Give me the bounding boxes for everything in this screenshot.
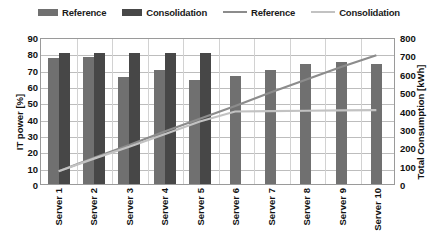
x-axis-tick-label: Server 2 — [88, 188, 99, 226]
y-axis-left-tick-label: 10 — [27, 163, 38, 174]
chart-legend: ReferenceConsolidationReferenceConsolida… — [0, 3, 438, 21]
chart-container: ReferenceConsolidationReferenceConsolida… — [0, 0, 438, 244]
plot-area — [40, 38, 395, 185]
line-series-layer — [41, 39, 394, 184]
legend-label: Consolidation — [339, 7, 400, 18]
x-axis-tick-label: Server 5 — [194, 188, 205, 226]
y-axis-left-tick-label: 50 — [27, 98, 38, 109]
y-axis-right-tick-label: 800 — [400, 33, 416, 44]
legend-swatch-bar-icon — [122, 9, 142, 16]
y-axis-right-tick-label: 500 — [400, 88, 416, 99]
x-axis-label-cell: Server 5 — [182, 186, 218, 244]
y-axis-right-tick-label: 300 — [400, 124, 416, 135]
legend-item-consolidation-line[interactable]: Consolidation — [311, 7, 400, 18]
x-axis-label-cell: Server 9 — [324, 186, 360, 244]
x-axis-tick-label: Server 10 — [372, 188, 383, 231]
legend-label: Consolidation — [146, 7, 207, 18]
y-axis-right-tick-label: 0 — [400, 180, 405, 191]
legend-swatch-line-icon — [223, 11, 247, 13]
x-axis-tick-label: Server 8 — [301, 188, 312, 226]
legend-label: Reference — [251, 7, 295, 18]
x-axis-label-cell: Server 10 — [360, 186, 396, 244]
legend-swatch-bar-icon — [38, 9, 58, 16]
y-axis-left-tick-label: 40 — [27, 114, 38, 125]
y-axis-right-tick-label: 200 — [400, 143, 416, 154]
x-axis-tick-label: Server 4 — [159, 188, 170, 226]
x-axis-tick-label: Server 3 — [123, 188, 134, 226]
y-axis-right-tick-label: 100 — [400, 161, 416, 172]
x-axis-label-cell: Server 4 — [147, 186, 183, 244]
y-axis-left-ticks: 9080706050403020100 — [12, 38, 38, 185]
x-axis-tick-label: Server 7 — [265, 188, 276, 226]
y-axis-left-tick-label: 30 — [27, 131, 38, 142]
x-axis-label-cell: Server 6 — [218, 186, 254, 244]
legend-item-reference-bar[interactable]: Reference — [38, 7, 106, 18]
x-axis-label-cell: Server 1 — [40, 186, 76, 244]
legend-item-consolidation-bar[interactable]: Consolidation — [122, 7, 207, 18]
y-axis-left-tick-label: 60 — [27, 82, 38, 93]
y-axis-right-tick-label: 600 — [400, 69, 416, 80]
x-axis-tick-label: Server 6 — [230, 188, 241, 226]
legend-label: Reference — [62, 7, 106, 18]
x-axis-label-cell: Server 7 — [253, 186, 289, 244]
y-axis-right-tick-label: 400 — [400, 106, 416, 117]
x-axis-label-cell: Server 3 — [111, 186, 147, 244]
y-axis-right-ticks: 8007006005004003002001000 — [400, 38, 426, 185]
x-axis-tick-label: Server 9 — [336, 188, 347, 226]
y-axis-left-tick-label: 70 — [27, 65, 38, 76]
y-axis-left-tick-label: 0 — [33, 180, 38, 191]
x-axis-tick-label: Server 1 — [52, 188, 63, 226]
y-axis-left-tick-label: 90 — [27, 33, 38, 44]
legend-item-reference-line[interactable]: Reference — [223, 7, 295, 18]
line-series-consolidation — [59, 110, 377, 171]
x-axis-label-cell: Server 2 — [76, 186, 112, 244]
y-axis-right-tick-label: 700 — [400, 51, 416, 62]
y-axis-left-tick-label: 20 — [27, 147, 38, 158]
legend-swatch-line-icon — [311, 11, 335, 13]
x-axis-label-cell: Server 8 — [289, 186, 325, 244]
x-axis-labels: Server 1Server 2Server 3Server 4Server 5… — [40, 186, 395, 244]
y-axis-left-tick-label: 80 — [27, 49, 38, 60]
